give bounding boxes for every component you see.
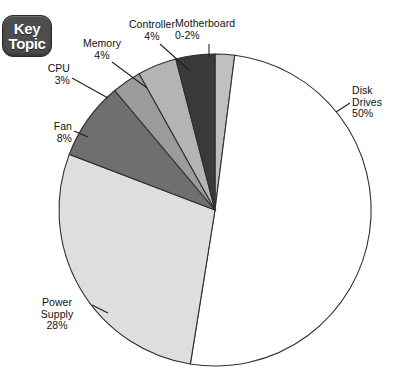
leader-line-disk	[336, 103, 350, 112]
slice-label-power-supply: Power Supply 28%	[26, 297, 88, 332]
pie-slice-group	[59, 54, 371, 366]
slice-label-cpu: CPU 3%	[24, 63, 70, 86]
leader-line-cpu	[72, 78, 108, 98]
pie-chart-figure: Key Topic CPU 3% Memory 4% Controller 4%…	[0, 0, 397, 380]
slice-label-fan: Fan 8%	[30, 121, 72, 144]
slice-label-disk-drives: Disk Drives 50%	[352, 85, 396, 120]
slice-label-motherboard: Motherboard 0-2%	[175, 18, 251, 41]
slice-label-controller: Controller 4%	[122, 19, 182, 42]
